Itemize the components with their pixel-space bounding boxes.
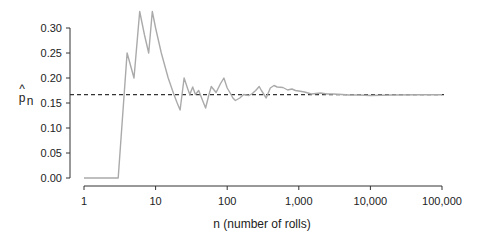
y-axis: 0.000.050.100.150.200.250.30 (41, 22, 70, 184)
x-axis: 1101001,00010,000100,000 (81, 186, 462, 207)
y-tick-label: 0.00 (41, 172, 62, 184)
svg-text:n: n (27, 94, 34, 108)
x-axis-title: n (number of rolls) (213, 217, 310, 231)
x-tick-label: 1,000 (285, 195, 313, 207)
svg-text:p: p (19, 91, 26, 105)
x-tick-label: 100,000 (422, 195, 462, 207)
x-tick-label: 1 (81, 195, 87, 207)
y-tick-label: 0.10 (41, 122, 62, 134)
running-proportion-chart: 0.000.050.100.150.200.250.30 1101001,000… (0, 0, 478, 245)
y-tick-label: 0.30 (41, 22, 62, 34)
y-axis-title: ^ p n (19, 82, 34, 108)
y-tick-label: 0.05 (41, 147, 62, 159)
x-tick-label: 10,000 (354, 195, 388, 207)
x-tick-label: 10 (149, 195, 161, 207)
y-tick-label: 0.20 (41, 72, 62, 84)
y-tick-label: 0.15 (41, 97, 62, 109)
x-tick-label: 100 (218, 195, 236, 207)
y-tick-label: 0.25 (41, 47, 62, 59)
